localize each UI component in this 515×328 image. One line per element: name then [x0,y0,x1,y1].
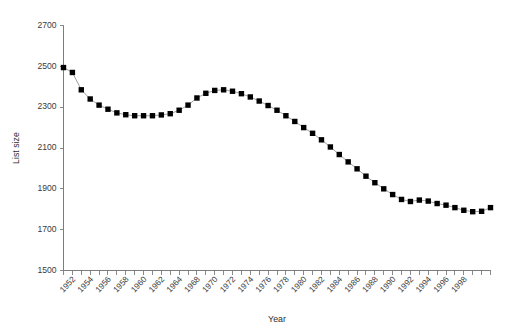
data-point-marker [221,87,226,92]
data-point-marker [461,208,466,213]
x-axis-ticks [64,271,491,275]
y-tick-label: 1700 [37,224,56,234]
data-point-marker [239,91,244,96]
data-point-marker [123,112,128,117]
x-tick-label: 1974 [235,274,255,295]
x-tick-label: 1988 [360,274,380,295]
data-point-marker [230,89,235,94]
data-point-marker [372,180,377,185]
x-tick-label: 1968 [182,274,202,295]
data-point-marker [274,108,279,113]
data-point-marker [265,103,270,108]
x-tick-label: 1998 [449,274,469,295]
x-tick-label: 1994 [413,274,433,295]
y-tick-label: 1900 [37,183,56,193]
data-point-marker [301,125,306,130]
data-point-marker [87,96,92,101]
data-point-marker [114,110,119,115]
x-tick-label: 1982 [307,274,327,295]
data-point-marker [319,137,324,142]
data-point-marker [168,111,173,116]
y-tick-label: 2100 [37,142,56,152]
x-tick-label: 1962 [146,274,166,295]
data-point-marker [443,202,448,207]
x-tick-label: 1980 [289,274,309,295]
y-axis-tick-labels: 1500170019002100230025002700 [37,20,56,275]
data-point-marker [257,98,262,103]
series-markers-list-size [61,65,493,215]
x-tick-label: 1990 [378,274,398,295]
y-axis-title: List size [11,132,21,164]
data-point-marker [105,107,110,112]
data-point-marker [70,70,75,75]
data-point-marker [310,131,315,136]
data-point-marker [194,95,199,100]
x-tick-label: 1986 [342,274,362,295]
data-point-marker [399,197,404,202]
chart-container: 1500170019002100230025002700 19521954195… [0,0,515,328]
x-tick-label: 1964 [164,274,184,295]
data-point-marker [417,197,422,202]
data-point-marker [390,192,395,197]
y-tick-label: 2700 [37,20,56,30]
x-tick-label: 1958 [111,274,131,295]
data-point-marker [381,186,386,191]
data-point-marker [132,113,137,118]
data-point-marker [185,102,190,107]
series-line-list-size [64,68,491,212]
data-point-marker [426,198,431,203]
data-point-marker [176,108,181,113]
x-tick-label: 1960 [129,274,149,295]
line-chart: 1500170019002100230025002700 19521954195… [0,0,515,328]
x-tick-label: 1984 [324,274,344,295]
x-tick-label: 1972 [218,274,238,295]
x-tick-label: 1952 [57,274,77,295]
data-point-marker [159,112,164,117]
data-point-marker [452,205,457,210]
data-point-marker [248,94,253,99]
y-axis-ticks [60,26,64,271]
data-point-marker [96,102,101,107]
x-tick-label: 1956 [93,274,113,295]
data-point-marker [328,144,333,149]
x-tick-label: 1970 [200,274,220,295]
data-point-marker [488,205,493,210]
x-axis-tick-labels: 1952195419561958196019621964196819701972… [57,274,469,295]
data-point-marker [345,159,350,164]
data-point-marker [479,209,484,214]
data-point-marker [292,119,297,124]
data-point-marker [141,113,146,118]
x-tick-label: 1976 [253,274,273,295]
data-point-marker [354,166,359,171]
x-tick-label: 1978 [271,274,291,295]
data-point-marker [363,173,368,178]
x-axis-title: Year [268,314,286,324]
data-point-marker [212,88,217,93]
y-tick-label: 1500 [37,265,56,275]
y-tick-label: 2500 [37,61,56,71]
data-point-marker [61,65,66,70]
data-point-marker [283,113,288,118]
x-tick-label: 1996 [431,274,451,295]
x-tick-label: 1954 [75,274,95,295]
data-point-marker [203,91,208,96]
y-tick-label: 2300 [37,101,56,111]
data-point-marker [434,201,439,206]
data-point-marker [337,152,342,157]
data-point-marker [470,209,475,214]
data-point-marker [408,199,413,204]
x-tick-label: 1992 [395,274,415,295]
data-point-marker [150,113,155,118]
data-point-marker [79,87,84,92]
